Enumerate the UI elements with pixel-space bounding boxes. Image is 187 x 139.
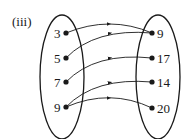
dot-7: [63, 79, 68, 84]
codomain-label: 20: [157, 101, 170, 116]
domain-label: 3: [54, 26, 61, 41]
dot-14: [149, 79, 154, 84]
dot-9: [63, 104, 68, 109]
codomain-label: 9: [157, 26, 164, 41]
domain-ellipse: [40, 15, 84, 139]
codomain-points: 9 17 14 20: [149, 26, 170, 116]
dot-17: [149, 55, 154, 60]
dot-9: [149, 30, 154, 35]
dot-5: [63, 55, 68, 60]
arrow-7-to-17: [66, 57, 152, 82]
domain-label: 7: [54, 75, 61, 90]
dot-20: [149, 105, 154, 110]
mapping-diagram: (iii) 3 5 7 9 9 17 14 20: [0, 0, 187, 139]
domain-label: 5: [54, 51, 61, 66]
codomain-label: 14: [157, 75, 171, 90]
dot-3: [63, 30, 68, 35]
domain-label: 9: [54, 100, 61, 115]
domain-points: 3 5 7 9: [54, 26, 69, 115]
arrow-3-to-9: [66, 24, 152, 33]
codomain-label: 17: [157, 51, 171, 66]
part-label: (iii): [12, 14, 32, 29]
